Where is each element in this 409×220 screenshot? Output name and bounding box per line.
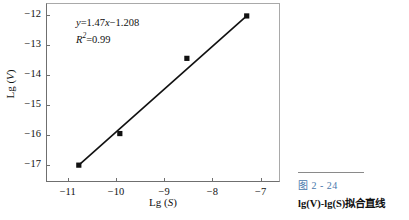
x-axis-title-prefix: Lg ( (149, 196, 168, 208)
y-axis-tick-label: −13 (7, 38, 41, 49)
x-axis-title: Lg (S) (46, 196, 280, 208)
r-squared-value: =0.99 (86, 34, 110, 45)
y-axis-tick (46, 15, 50, 16)
y-axis-tick-label: −12 (7, 8, 41, 19)
y-axis-tick-label: −16 (7, 128, 41, 139)
x-axis-tick (212, 178, 213, 182)
y-axis-tick (46, 105, 50, 106)
caption-number: 图 2 - 24 (298, 177, 409, 192)
y-axis-title-prefix: Lg ( (4, 80, 16, 99)
caption-divider (298, 172, 364, 173)
fit-annotation: y=1.47x−1.208 R2=0.99 (76, 16, 139, 46)
y-axis-tick-label: −17 (7, 158, 41, 169)
equation-body: =1.47 (81, 17, 105, 28)
y-axis-tick (46, 75, 50, 76)
equation-line: y=1.47x−1.208 (76, 16, 139, 29)
x-axis-tick (261, 178, 262, 182)
y-axis-tick (46, 165, 50, 166)
x-axis-tick (116, 178, 117, 182)
figure-caption: 图 2 - 24 lg(V)-lg(S)拟合直线 (298, 172, 409, 210)
y-axis-tick (46, 45, 50, 46)
y-axis-title: Lg (V) (4, 49, 16, 119)
y-axis-tick (46, 135, 50, 136)
r-squared-line: R2=0.99 (76, 29, 139, 46)
figure-container: −11−10−9−8−7−12−13−14−15−16−17 y=1.47x−1… (0, 0, 409, 220)
plot-area: −11−10−9−8−7−12−13−14−15−16−17 y=1.47x−1… (0, 0, 285, 200)
y-axis-title-var: V (4, 73, 16, 80)
x-axis-tick (164, 178, 165, 182)
y-axis-title-suffix: ) (4, 69, 16, 73)
caption-text: lg(V)-lg(S)拟合直线 (298, 195, 409, 210)
equation-tail: −1.208 (110, 17, 140, 28)
x-axis-tick (68, 178, 69, 182)
x-axis-title-suffix: ) (173, 196, 177, 208)
